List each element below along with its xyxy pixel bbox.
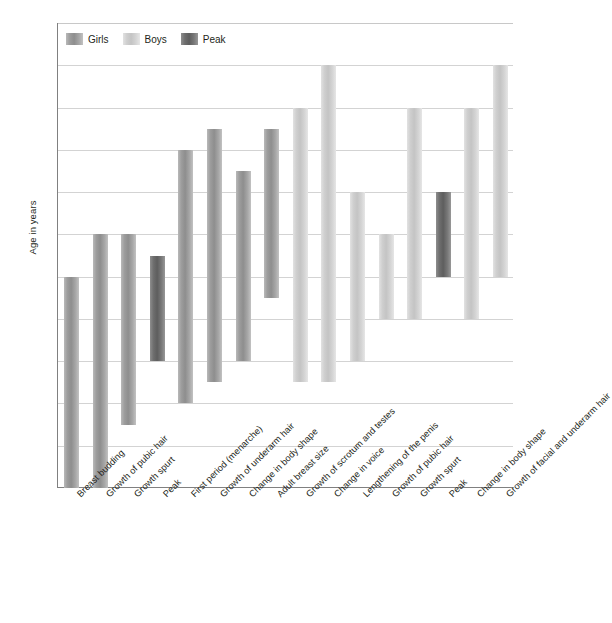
y-axis-title: Age in years [27,168,38,288]
x-axis-label-15: Growth of facial and underarm hair [504,391,612,499]
bar-7[interactable] [264,129,279,298]
legend-swatch-peak [181,33,198,45]
legend-label-girls: Girls [88,34,109,45]
legend-swatch-girls [66,33,83,45]
legend-swatch-boys [123,33,140,45]
bar-14[interactable] [464,108,479,319]
bar-3[interactable] [150,256,165,362]
bar-2[interactable] [121,234,136,424]
bar-9[interactable] [321,65,336,382]
gridline-16 [58,150,513,151]
gridline-17 [58,108,513,109]
bar-0[interactable] [64,277,79,488]
legend-label-boys: Boys [145,34,167,45]
bar-8[interactable] [293,108,308,383]
plot-area: 8910111213141516171819 [57,23,513,488]
gridline-18 [58,65,513,66]
bar-15[interactable] [493,65,508,276]
gridline-9 [58,446,513,447]
gridline-19 [58,23,513,24]
bar-10[interactable] [350,192,365,361]
bar-13[interactable] [436,192,451,277]
legend-item-boys[interactable]: Boys [123,33,167,45]
bar-11[interactable] [379,234,394,319]
legend-label-peak: Peak [203,34,226,45]
chart-legend: GirlsBoysPeak [66,33,226,45]
legend-item-girls[interactable]: Girls [66,33,109,45]
legend-item-peak[interactable]: Peak [181,33,226,45]
bar-1[interactable] [93,234,108,488]
bar-12[interactable] [407,108,422,319]
bar-4[interactable] [178,150,193,404]
bar-5[interactable] [207,129,222,383]
bar-6[interactable] [236,171,251,361]
